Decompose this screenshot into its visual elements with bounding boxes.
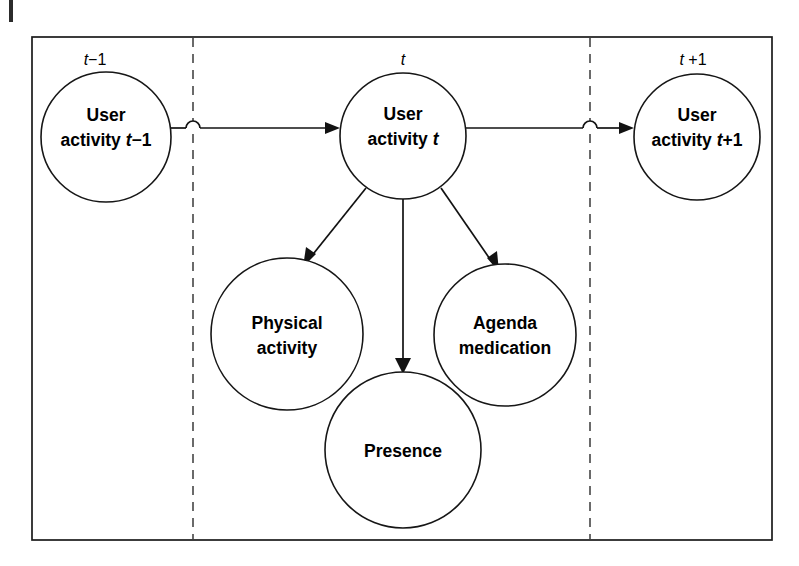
slice-header-prev-rest: −1 bbox=[88, 51, 106, 68]
time-slice-header-next: t +1 bbox=[679, 51, 706, 68]
node-user-activity-prev[interactable]: User activity t−1 bbox=[41, 72, 171, 202]
node-physical-activity-label-line1: Physical bbox=[251, 313, 322, 333]
time-slice-header-prev: t−1 bbox=[84, 51, 107, 68]
node-user-activity-next-label-pre: activity bbox=[652, 130, 717, 150]
dbn-diagram-canvas: t−1 t t +1 bbox=[0, 0, 799, 566]
node-physical-activity-label-line2: activity bbox=[257, 338, 318, 358]
node-user-activity-current-label-line2: activity t bbox=[367, 129, 439, 149]
node-agenda-medication-label-line2: medication bbox=[459, 338, 551, 358]
time-slice-header-current: t bbox=[401, 51, 406, 68]
node-user-activity-next-label-post: +1 bbox=[723, 130, 743, 150]
node-physical-activity-shape[interactable] bbox=[211, 258, 363, 410]
node-user-activity-next[interactable]: User activity t+1 bbox=[634, 74, 760, 200]
slice-header-current-italic-t: t bbox=[401, 51, 406, 68]
node-user-activity-current[interactable]: User activity t bbox=[340, 73, 466, 199]
page-margin-tick bbox=[9, 0, 13, 22]
node-agenda-medication-label-line1: Agenda bbox=[473, 313, 537, 333]
node-user-activity-prev-label-post: −1 bbox=[132, 130, 152, 150]
node-user-activity-next-label-line2: activity t+1 bbox=[652, 130, 743, 150]
node-user-activity-prev-label-line2: activity t−1 bbox=[61, 130, 152, 150]
node-user-activity-next-label-line1: User bbox=[678, 105, 717, 125]
edge-current-to-next-hop-icon bbox=[583, 121, 597, 128]
edge-prev-to-current-hop-icon bbox=[186, 121, 200, 128]
node-agenda-medication-shape[interactable] bbox=[434, 264, 576, 406]
node-user-activity-current-label-pre: activity bbox=[367, 129, 432, 149]
node-user-activity-current-label-line1: User bbox=[384, 104, 423, 124]
node-agenda-medication[interactable]: Agenda medication bbox=[434, 264, 576, 406]
node-physical-activity[interactable]: Physical activity bbox=[211, 258, 363, 410]
node-presence-label: Presence bbox=[364, 441, 442, 461]
slice-header-next-rest: +1 bbox=[688, 51, 706, 68]
node-user-activity-prev-label-line1: User bbox=[87, 105, 126, 125]
node-user-activity-prev-label-pre: activity bbox=[61, 130, 126, 150]
node-presence[interactable]: Presence bbox=[325, 372, 481, 528]
figure-root: t−1 t t +1 bbox=[0, 0, 799, 566]
